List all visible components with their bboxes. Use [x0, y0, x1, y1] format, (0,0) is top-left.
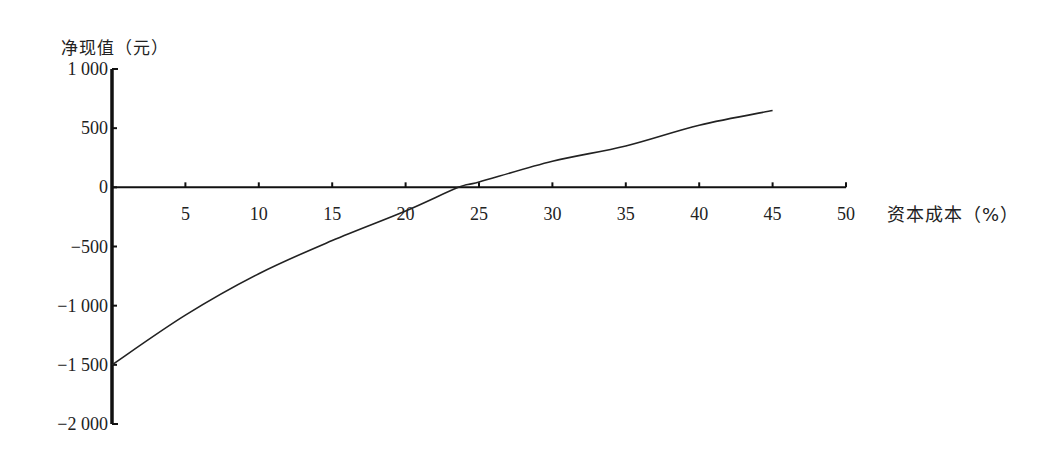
x-tick-label: 40 [690, 204, 708, 224]
x-tick-label: 30 [543, 204, 561, 224]
npv-curve [112, 110, 773, 364]
figure-caption-cropped [330, 452, 750, 463]
y-axis-title: 净现值（元） [61, 34, 169, 59]
y-tick-label: 1 000 [68, 59, 109, 79]
y-tick-label: −500 [71, 237, 108, 257]
y-tick-label: −2 000 [57, 414, 108, 434]
y-tick-label: 0 [99, 177, 108, 197]
x-tick-label: 15 [323, 204, 341, 224]
y-tick-label: 500 [81, 118, 108, 138]
x-tick-label: 25 [470, 204, 488, 224]
x-tick-label: 35 [617, 204, 635, 224]
plot-area: 51015202530354045501 0005000−500−1 000−1… [0, 0, 1063, 463]
y-tick-label: −1 500 [57, 355, 108, 375]
x-tick-label: 10 [250, 204, 268, 224]
x-tick-label: 5 [181, 204, 190, 224]
y-tick-label: −1 000 [57, 296, 108, 316]
x-tick-label: 45 [764, 204, 782, 224]
x-tick-label: 50 [837, 204, 855, 224]
npv-chart: 净现值（元） 资本成本（%） 51015202530354045501 0005… [0, 0, 1063, 463]
x-axis-title: 资本成本（%） [887, 200, 1019, 226]
